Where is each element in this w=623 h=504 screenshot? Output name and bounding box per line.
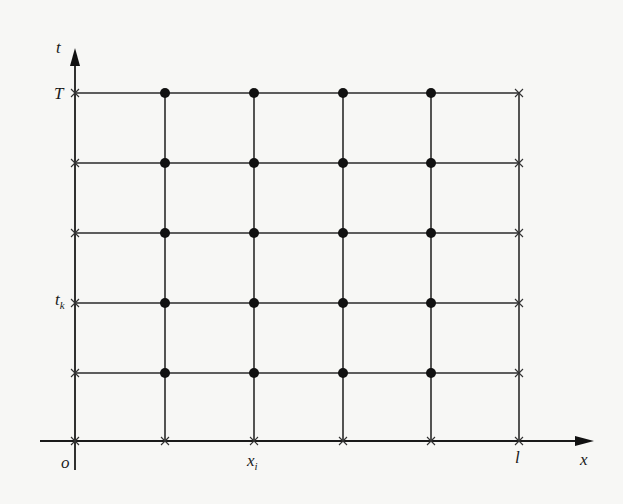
t-axis-arrow-icon [70,48,80,66]
horizontal-grid-lines [75,93,519,373]
x-axis-label: x [579,450,588,469]
tk-label: tk [55,290,66,311]
boundary-cross-markers [71,89,523,445]
x-axis-arrow-icon [575,436,594,446]
grid-diagram: t T tk o xi l x [0,0,623,504]
T-label: T [54,84,65,103]
xi-label: xi [246,451,258,472]
t-axis-label: t [56,38,62,57]
l-label: l [515,448,520,467]
origin-label: o [61,453,70,472]
vertical-grid-lines [165,93,519,441]
